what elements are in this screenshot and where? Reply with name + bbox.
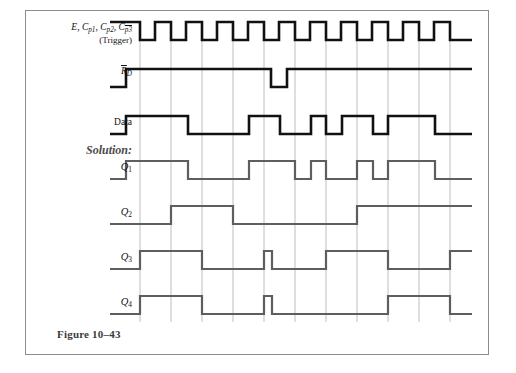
trigger-label-text: E, Cp1, Cp2, Cp3 xyxy=(71,22,132,32)
rd-label-text: RD xyxy=(121,66,132,76)
row-label-q2: Q2 xyxy=(121,206,132,219)
data-label-text: Data xyxy=(114,117,132,127)
q1-label-text: Q1 xyxy=(121,161,132,172)
figure-caption-text: Figure 10–43 xyxy=(57,328,121,340)
row-label-data: Data xyxy=(114,117,132,128)
waveform-q2 xyxy=(110,206,472,224)
solution-label-text: Solution: xyxy=(86,143,132,157)
q4-label-text: Q4 xyxy=(121,296,132,307)
waveform-q1 xyxy=(110,161,472,179)
row-label-q4: Q4 xyxy=(121,296,132,309)
waveform-q3 xyxy=(110,251,472,269)
trigger-sublabel-text: (Trigger) xyxy=(99,35,132,45)
figure-caption: Figure 10–43 xyxy=(57,328,121,340)
timing-diagram-canvas xyxy=(0,0,516,373)
row-label-trigger: E, Cp1, Cp2, Cp3 xyxy=(71,22,132,34)
figure-page: E, Cp1, Cp2, Cp3 (Trigger) RD Data Solut… xyxy=(0,0,516,373)
q2-label-text: Q2 xyxy=(121,206,132,217)
row-label-q1: Q1 xyxy=(121,161,132,174)
row-label-rd: RD xyxy=(121,66,132,78)
solution-group-label: Solution: xyxy=(86,144,132,157)
row-sublabel-trigger: (Trigger) xyxy=(99,35,132,45)
waveform-data xyxy=(110,116,472,134)
waveform-rd xyxy=(110,69,472,87)
row-label-q3: Q3 xyxy=(121,251,132,264)
waveform-q4 xyxy=(110,296,472,314)
waveform-trigger xyxy=(110,22,472,40)
q3-label-text: Q3 xyxy=(121,251,132,262)
